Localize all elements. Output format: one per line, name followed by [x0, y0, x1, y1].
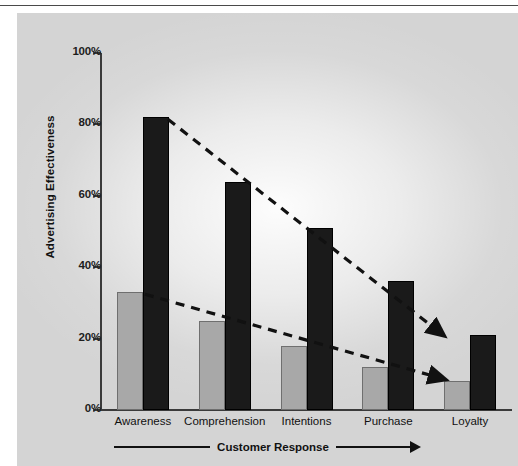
bar-dark-awareness — [143, 117, 169, 410]
caption-arrowhead-icon — [410, 441, 421, 453]
bar-light-loyalty — [444, 381, 470, 410]
bar-dark-purchase — [388, 281, 414, 410]
y-tick-label: 0% — [55, 402, 101, 414]
category-label-intentions: Intentions — [266, 415, 348, 427]
caption-rule-left — [114, 446, 210, 448]
y-tick-label: 60% — [55, 188, 101, 200]
bar-dark-loyalty — [470, 335, 496, 410]
category-label-purchase: Purchase — [347, 415, 429, 427]
bar-dark-comprehension — [225, 182, 251, 410]
category-label-awareness: Awareness — [102, 415, 184, 427]
y-tick-label: 100% — [55, 45, 101, 57]
trend-line-overlay — [17, 13, 518, 466]
bar-light-awareness — [117, 292, 143, 410]
bar-light-purchase — [362, 367, 388, 410]
x-axis-caption-label: Customer Response — [210, 441, 336, 453]
y-tick-label: 40% — [55, 259, 101, 271]
y-tick-label: 80% — [55, 116, 101, 128]
bar-dark-intentions — [307, 228, 333, 410]
y-tick-label: 20% — [55, 331, 101, 343]
chart-panel: Advertising Effectiveness 100%80%60%40%2… — [17, 13, 518, 466]
bar-light-comprehension — [199, 321, 225, 410]
chart-figure: Advertising Effectiveness 100%80%60%40%2… — [0, 0, 518, 466]
bar-light-intentions — [281, 346, 307, 410]
page-top-rule — [0, 5, 518, 6]
x-axis-caption: Customer Response — [17, 436, 518, 458]
category-label-loyalty: Loyalty — [429, 415, 511, 427]
caption-rule-right — [336, 446, 411, 448]
y-axis-line — [100, 53, 102, 411]
category-label-comprehension: Comprehension — [184, 415, 266, 427]
